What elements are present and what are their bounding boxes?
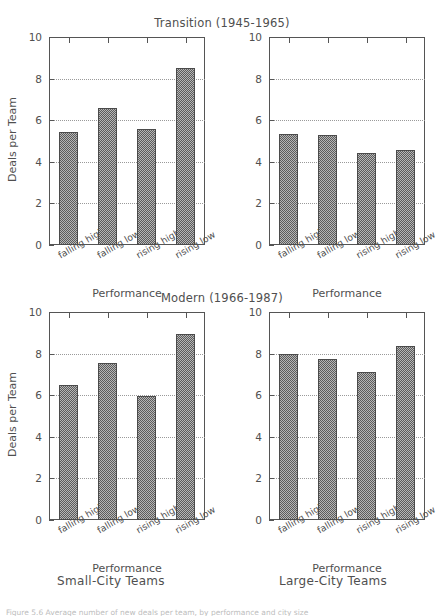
bar-falling-high (279, 134, 298, 245)
x-axis-tick-top (69, 37, 70, 43)
y-axis-tick (49, 437, 54, 438)
x-axis-tick-top (289, 37, 290, 43)
y-axis-tick (269, 37, 274, 38)
plot-area: 0246810falling highfalling lowrising hig… (269, 37, 425, 245)
x-axis-tick-top (147, 37, 148, 43)
y-axis-tick-label: 8 (35, 73, 42, 85)
y-axis-tick (49, 37, 54, 38)
y-axis-tick (49, 162, 54, 163)
bar-rising-low (176, 68, 195, 245)
y-axis-tick-label: 6 (35, 114, 42, 126)
gridline (269, 120, 425, 121)
x-axis-tick-top (289, 312, 290, 318)
y-axis-tick (49, 203, 54, 204)
plot-area: 0246810falling highfalling lowrising hig… (49, 312, 205, 520)
y-axis-tick-label: 6 (35, 389, 42, 401)
y-axis-tick (269, 203, 274, 204)
y-axis-tick-label: 8 (35, 348, 42, 360)
x-axis-tick-top (186, 312, 187, 318)
figure-root: Transition (1945-1965) Modern (1966-1987… (0, 0, 444, 616)
x-axis-tick-top (367, 312, 368, 318)
y-axis-tick-label: 2 (35, 472, 42, 484)
figure-caption-truncated: Figure 5.6 Average number of new deals p… (6, 608, 438, 616)
y-axis-tick (49, 79, 54, 80)
bar-falling-low (318, 135, 337, 245)
y-axis-tick-label: 4 (35, 156, 42, 168)
y-axis-tick (49, 120, 54, 121)
gridline (269, 79, 425, 80)
x-axis-tick-top (108, 312, 109, 318)
y-axis-tick (269, 245, 274, 246)
y-axis-tick-label: 4 (255, 156, 262, 168)
x-axis-tick-top (147, 312, 148, 318)
panel-modern-small-city: 0246810falling highfalling lowrising hig… (49, 312, 205, 520)
bar-rising-high (137, 396, 156, 520)
y-axis-tick (49, 245, 54, 246)
y-axis-tick-label: 0 (35, 514, 42, 526)
x-axis-tick-top (108, 37, 109, 43)
bar-rising-high (357, 372, 376, 520)
y-axis-tick (49, 478, 54, 479)
bar-rising-high (357, 153, 376, 245)
plot-area: 0246810falling highfalling lowrising hig… (269, 312, 425, 520)
x-axis-tick-top (69, 312, 70, 318)
y-axis-tick (49, 395, 54, 396)
row-title-transition: Transition (1945-1965) (0, 16, 444, 30)
y-axis-tick (269, 79, 274, 80)
y-axis-title: Deals per Team (6, 85, 19, 195)
bar-falling-low (318, 359, 337, 520)
bar-falling-low (98, 363, 117, 520)
y-axis-tick (269, 520, 274, 521)
x-axis-tick-top (328, 37, 329, 43)
y-axis-tick (269, 162, 274, 163)
plot-area: 0246810falling highfalling lowrising hig… (49, 37, 205, 245)
panel-transition-small-city: 0246810falling highfalling lowrising hig… (49, 37, 205, 245)
y-axis-tick-label: 10 (29, 31, 42, 43)
y-axis-tick-label: 6 (255, 389, 262, 401)
caption-large-city-teams: Large-City Teams (222, 574, 444, 588)
y-axis-tick-label: 10 (249, 31, 262, 43)
y-axis-tick-label: 0 (35, 239, 42, 251)
bar-rising-low (396, 346, 415, 520)
x-axis-tick-top (328, 312, 329, 318)
x-axis-title: Performance (269, 287, 425, 300)
y-axis-tick (49, 520, 54, 521)
bar-falling-high (59, 132, 78, 245)
caption-small-city-teams: Small-City Teams (0, 574, 222, 588)
y-axis-tick-label: 2 (35, 197, 42, 209)
x-axis-tick-top (367, 37, 368, 43)
y-axis-tick-label: 10 (29, 306, 42, 318)
y-axis-tick-label: 2 (255, 197, 262, 209)
bar-falling-high (279, 354, 298, 520)
x-axis-title: Performance (49, 287, 205, 300)
bar-falling-low (98, 108, 117, 245)
y-axis-tick (269, 354, 274, 355)
y-axis-title: Deals per Team (6, 360, 19, 470)
y-axis-tick-label: 6 (255, 114, 262, 126)
y-axis-tick-label: 0 (255, 514, 262, 526)
x-axis-tick-top (186, 37, 187, 43)
y-axis-tick (269, 478, 274, 479)
panel-transition-large-city: 0246810falling highfalling lowrising hig… (269, 37, 425, 245)
y-axis-tick (49, 354, 54, 355)
y-axis-tick (269, 120, 274, 121)
y-axis-tick (269, 437, 274, 438)
y-axis-tick-label: 2 (255, 472, 262, 484)
y-axis-tick (269, 312, 274, 313)
bar-rising-low (176, 334, 195, 520)
x-axis-tick-top (406, 37, 407, 43)
y-axis-tick (269, 395, 274, 396)
y-axis-tick-label: 0 (255, 239, 262, 251)
bar-falling-high (59, 385, 78, 520)
panel-modern-large-city: 0246810falling highfalling lowrising hig… (269, 312, 425, 520)
y-axis-tick-label: 10 (249, 306, 262, 318)
bar-rising-high (137, 129, 156, 245)
y-axis-tick-label: 8 (255, 348, 262, 360)
y-axis-tick-label: 4 (35, 431, 42, 443)
y-axis-tick-label: 4 (255, 431, 262, 443)
y-axis-tick-label: 8 (255, 73, 262, 85)
y-axis-tick (49, 312, 54, 313)
x-axis-tick-top (406, 312, 407, 318)
bar-rising-low (396, 150, 415, 245)
